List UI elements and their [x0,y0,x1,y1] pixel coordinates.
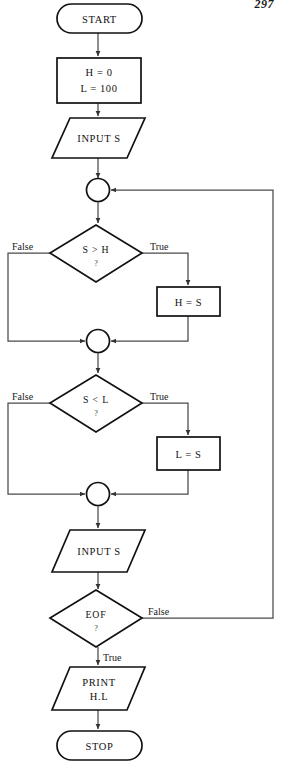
init-label-line2: L = 100 [80,83,117,94]
node-assign-l[interactable]: L = S [157,437,220,470]
init-process-shape [57,58,141,103]
dec3-question-mark: ? [94,624,98,633]
assign-l-label: L = S [175,449,201,460]
start-label: START [82,14,117,25]
node-connector-2[interactable] [87,330,110,353]
node-start[interactable]: START [57,4,142,33]
node-decision-eof[interactable]: EOF ? [50,590,142,647]
input2-label: INPUT S [77,546,120,557]
edge-dec1-true-to-assign-h [142,253,188,285]
node-connector-3[interactable] [87,483,110,506]
node-input-s-2[interactable]: INPUT S [52,530,145,572]
node-stop[interactable]: STOP [57,731,142,760]
connector2-shape [87,330,110,353]
node-decision-s-gt-h[interactable]: S > H ? [50,225,142,282]
dec3-true-label: True [103,652,122,663]
node-init[interactable]: H = 0 L = 100 [57,58,141,103]
node-input-s-1[interactable]: INPUT S [52,118,145,158]
edge-dec2-true-to-assign-l [142,403,188,435]
edge-assign-l-to-conn3 [111,470,188,494]
assign-h-label: H = S [175,297,203,308]
page-number: 297 [255,0,275,12]
dec1-label: S > H [83,244,110,255]
print-io-shape [52,667,145,710]
init-label-line1: H = 0 [85,67,112,78]
connector3-shape [87,483,110,506]
node-assign-h[interactable]: H = S [157,287,220,316]
print-label-line2: H.L [90,691,108,702]
dec1-question-mark: ? [94,259,98,268]
edge-assign-h-to-conn2 [111,316,188,341]
node-print[interactable]: PRINT H.L [52,667,145,710]
dec2-true-label: True [150,391,169,402]
dec1-true-label: True [150,241,169,252]
dec1-false-label: False [12,241,34,252]
dec3-label: EOF [86,609,107,620]
print-label-line1: PRINT [82,677,115,688]
stop-label: STOP [86,741,114,752]
dec2-false-label: False [12,391,34,402]
dec3-false-label: False [148,606,170,617]
connector1-shape [87,179,110,202]
node-decision-s-lt-l[interactable]: S < L ? [50,375,142,432]
dec2-label: S < L [83,394,109,405]
input1-label: INPUT S [77,133,120,144]
flowchart-canvas: 297 [0,0,282,764]
node-connector-1[interactable] [87,179,110,202]
flowchart-svg: START H = 0 L = 100 INPUT S S > H ? Fals… [0,0,282,764]
dec2-question-mark: ? [94,409,98,418]
